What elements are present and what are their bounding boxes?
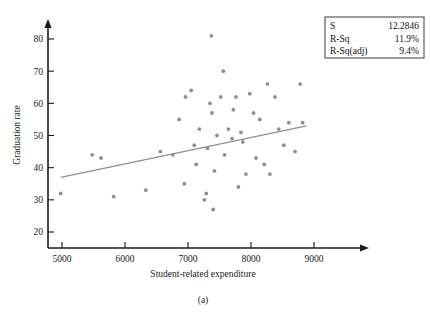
y-tick-label: 20 (34, 227, 44, 237)
x-tick-label: 6000 (116, 254, 135, 264)
data-point (241, 140, 245, 144)
data-point (234, 95, 238, 99)
data-point (158, 150, 162, 154)
stats-row-value: 11.9% (395, 34, 419, 44)
data-point (99, 156, 103, 160)
y-tick-label: 50 (34, 131, 44, 141)
stats-row-label: R-Sq(adj) (330, 46, 367, 57)
scatter-plot-figure: 2030405060708050006000700080009000Studen… (0, 0, 430, 314)
y-tick-label: 30 (34, 195, 44, 205)
data-point (112, 195, 116, 199)
data-point (213, 169, 217, 173)
data-point (237, 185, 241, 189)
data-point (211, 208, 215, 212)
data-point (209, 34, 213, 38)
data-point (219, 95, 223, 99)
data-point (273, 95, 277, 99)
data-point (221, 69, 225, 73)
data-point (144, 188, 148, 192)
data-point (223, 153, 227, 157)
data-point (182, 182, 186, 186)
x-axis-title: Student-related expenditure (150, 269, 255, 279)
data-point (59, 192, 63, 196)
x-axis-arrow (360, 244, 369, 251)
regression-line (61, 126, 307, 177)
x-tick-label: 7000 (179, 254, 198, 264)
data-point (192, 143, 196, 147)
stats-row-value: 12.2846 (388, 21, 419, 31)
y-tick-label: 40 (34, 163, 44, 173)
data-point (287, 121, 291, 125)
data-point (282, 143, 286, 147)
data-point (208, 101, 212, 105)
y-axis-title: Graduation rate (12, 105, 22, 164)
data-point (215, 134, 219, 138)
data-point (248, 92, 252, 96)
data-point (239, 130, 243, 134)
data-point (277, 127, 281, 131)
data-point (184, 95, 188, 99)
data-point (206, 146, 210, 150)
data-point (252, 111, 256, 115)
stats-row-label: R-Sq (330, 34, 350, 44)
data-point (204, 192, 208, 196)
data-point (268, 172, 272, 176)
data-point (262, 163, 266, 167)
data-point (210, 111, 214, 115)
data-point (226, 127, 230, 131)
data-point (265, 82, 269, 86)
data-point (189, 89, 193, 93)
stats-row-label: S (330, 21, 335, 31)
y-axis-arrow (44, 19, 51, 28)
y-tick-label: 80 (34, 34, 44, 44)
data-point (293, 150, 297, 154)
data-point (194, 163, 198, 167)
data-point (231, 108, 235, 112)
x-tick-label: 8000 (242, 254, 261, 264)
y-tick-label: 60 (34, 99, 44, 109)
data-point (171, 153, 175, 157)
data-point (90, 153, 94, 157)
data-point (230, 137, 234, 141)
data-point (298, 82, 302, 86)
data-point (254, 156, 258, 160)
x-tick-label: 5000 (53, 254, 72, 264)
data-point (197, 127, 201, 131)
stats-row-value: 9.4% (399, 46, 419, 56)
data-point (244, 172, 248, 176)
data-point (177, 118, 181, 122)
x-tick-label: 9000 (305, 254, 324, 264)
data-point (202, 198, 206, 202)
data-point (258, 118, 262, 122)
figure-caption: (a) (198, 295, 209, 306)
y-tick-label: 70 (34, 67, 44, 77)
data-point (301, 121, 305, 125)
